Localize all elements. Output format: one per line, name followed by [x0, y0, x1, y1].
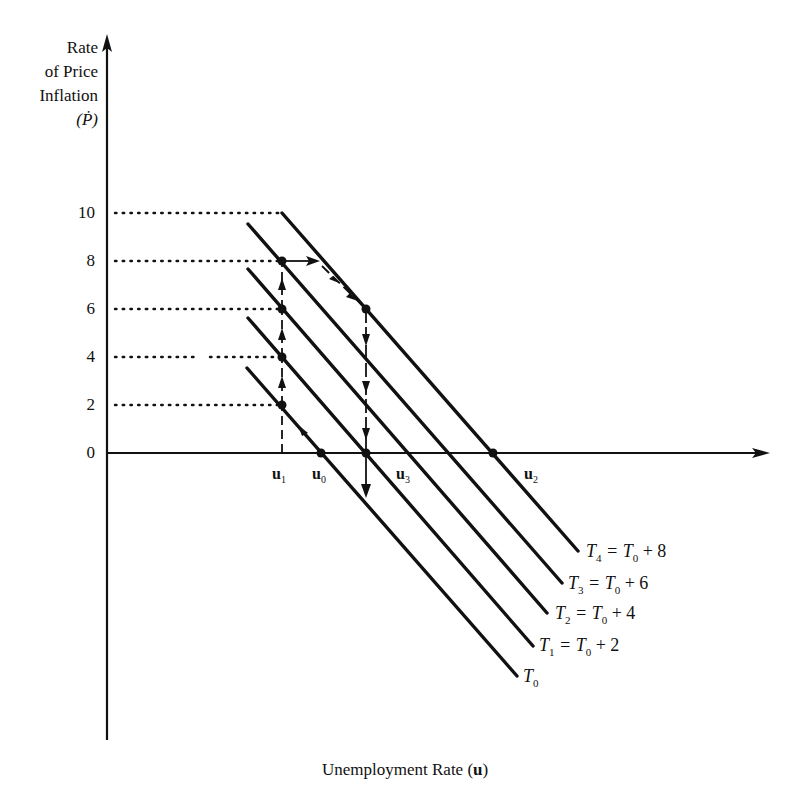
curve-label-t2: T2 = T0 + 4: [555, 603, 635, 626]
curve-label-t4: T4 = T0 + 8: [586, 541, 666, 564]
y-tick-4: 4: [65, 347, 95, 367]
u3-adjustment-path: [361, 309, 371, 498]
y-tick-8: 8: [65, 251, 95, 271]
phillips-curves: [247, 213, 578, 676]
u3-label: u3: [396, 465, 410, 485]
rightward-arrow: [282, 256, 320, 266]
diagonal-adjustment-path: [322, 266, 366, 309]
phillips-curve-diagram: [0, 0, 804, 785]
y-tick-6: 6: [65, 299, 95, 319]
y-axis-label-symbol: (Ṗ): [39, 108, 98, 132]
curve-t3: [248, 224, 562, 583]
curve-t0: [247, 368, 517, 676]
y-tick-0: 0: [65, 443, 95, 463]
y-tick-2: 2: [65, 395, 95, 415]
u1-label: u1: [272, 465, 286, 485]
u0-label: u0: [312, 465, 326, 485]
y-tick-10: 10: [65, 203, 95, 223]
curve-t4: [282, 213, 578, 551]
curve-label-t0: T0: [523, 666, 539, 689]
u2-label: u2: [524, 465, 538, 485]
curve-label-t3: T3 = T0 + 6: [568, 573, 648, 596]
y-axis: [102, 34, 112, 740]
curve-t2: [248, 269, 547, 613]
y-axis-label: Rate of Price Inflation (Ṗ): [39, 36, 98, 132]
curve-label-t1: T1 = T0 + 2: [539, 635, 619, 658]
x-axis-label: Unemployment Rate (u): [322, 760, 488, 780]
x-axis: [107, 448, 770, 458]
y-axis-label-line-2: of Price: [39, 60, 98, 84]
dotted-guides: [115, 213, 282, 405]
y-axis-label-line-1: Rate: [39, 36, 98, 60]
curve-t1: [248, 318, 533, 646]
y-axis-label-line-3: Inflation: [39, 84, 98, 108]
